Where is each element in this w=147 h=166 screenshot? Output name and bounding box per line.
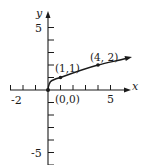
x-axis-arrow-icon [124, 88, 131, 93]
point-origin [46, 88, 50, 92]
y-tick-label-5: 5 [35, 22, 42, 35]
y-axis-label: y [35, 7, 43, 20]
x-tick-label-5: 5 [107, 93, 114, 106]
y-tick-label-neg5: -5 [31, 147, 42, 160]
x-tick-label-neg2: -2 [11, 94, 22, 107]
y-ticks [48, 28, 54, 166]
curve-arrow-icon [125, 56, 133, 61]
point-label-1-1: (1,1) [55, 62, 80, 74]
point-4-2 [96, 63, 100, 67]
sqrt-function-graph: y 5 -5 -2 5 x (1,1) (4, 2) (0,0) [0, 0, 147, 165]
x-axis-label: x [132, 80, 139, 93]
y-axis-arrow-icon [46, 11, 51, 18]
point-label-origin: (0,0) [55, 93, 80, 105]
point-label-4-2: (4, 2) [90, 51, 118, 63]
point-1-1 [59, 76, 63, 80]
x-ticks [11, 85, 111, 90]
